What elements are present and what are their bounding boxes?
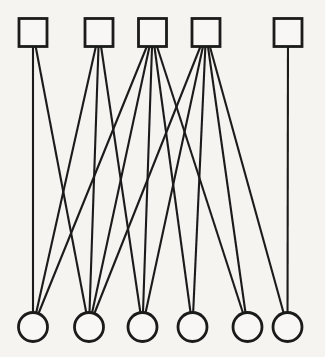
paper-background bbox=[0, 0, 325, 357]
circle-node-C6 bbox=[273, 313, 302, 342]
circle-node-C3 bbox=[128, 313, 157, 342]
graph-canvas bbox=[0, 0, 325, 357]
square-node-S1 bbox=[19, 19, 47, 47]
square-node-S2 bbox=[85, 19, 113, 47]
square-node-S5 bbox=[274, 19, 302, 47]
circle-node-C4 bbox=[178, 313, 207, 342]
bipartite-graph-diagram bbox=[0, 0, 325, 357]
circle-node-C5 bbox=[233, 313, 262, 342]
square-node-S4 bbox=[192, 19, 220, 47]
edge-S5-C6 bbox=[288, 33, 289, 328]
circle-node-C2 bbox=[75, 313, 104, 342]
square-node-S3 bbox=[139, 19, 167, 47]
circle-node-C1 bbox=[19, 313, 48, 342]
